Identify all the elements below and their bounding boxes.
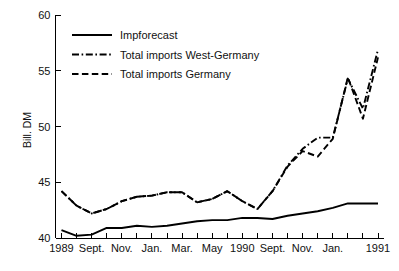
chart-container: 4045505560 1989Sept.Nov.Jan.Mar.May1990S… bbox=[0, 0, 399, 271]
x-tick-label-Mar: Mar. bbox=[171, 242, 192, 254]
legend-label-impforecast: Impforecast bbox=[120, 29, 177, 41]
x-tick-label-Nov: Nov. bbox=[292, 242, 314, 254]
y-tick-label-60: 60 bbox=[38, 9, 50, 21]
x-tick-label-Sept: Sept. bbox=[260, 242, 286, 254]
x-tick-label-Jan: Jan. bbox=[142, 242, 163, 254]
x-tick-label-Jan: Jan. bbox=[322, 242, 343, 254]
x-tick-label-Sept: Sept. bbox=[79, 242, 105, 254]
x-tick-label-May: May bbox=[202, 242, 223, 254]
x-tick-label-1989: 1989 bbox=[49, 242, 73, 254]
y-tick-label-45: 45 bbox=[38, 176, 50, 188]
x-tick-label-Nov: Nov. bbox=[111, 242, 133, 254]
chart-background bbox=[0, 0, 399, 271]
legend-label-total-imports-germany: Total imports Germany bbox=[120, 68, 231, 80]
y-axis-title: Bill. DM bbox=[21, 112, 33, 148]
y-tick-label-55: 55 bbox=[38, 65, 50, 77]
y-tick-label-50: 50 bbox=[38, 121, 50, 133]
imports-forecast-line-chart: 4045505560 1989Sept.Nov.Jan.Mar.May1990S… bbox=[0, 0, 399, 271]
x-tick-label-1991: 1991 bbox=[366, 242, 390, 254]
x-tick-label-1990: 1990 bbox=[230, 242, 254, 254]
x-tick-labels: 1989Sept.Nov.Jan.Mar.May1990Sept.Nov.Jan… bbox=[49, 242, 390, 254]
legend-label-total-imports-west-germany: Total imports West-Germany bbox=[120, 49, 260, 61]
